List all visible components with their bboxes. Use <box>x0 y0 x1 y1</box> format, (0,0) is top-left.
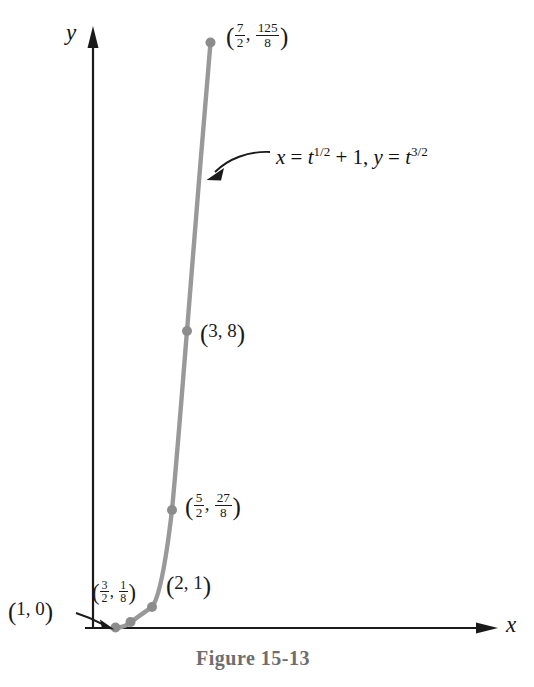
equation-exp2: 3/2 <box>411 144 428 159</box>
point-marker <box>147 602 157 612</box>
equation-eq1: = <box>285 145 307 169</box>
leader-arrow-equation <box>207 152 271 181</box>
curve-equation-label: x = t1/2 + 1, y = t3/2 <box>276 144 428 170</box>
paren-close: ) <box>203 572 211 599</box>
point-marker <box>126 617 136 627</box>
point-marker <box>111 623 121 633</box>
paren-open: ( <box>92 580 99 605</box>
fraction-1-8: 18 <box>119 579 128 604</box>
fraction-125-8: 1258 <box>256 21 279 49</box>
y-axis-label: y <box>66 20 76 46</box>
paren-close: ) <box>45 598 53 625</box>
point-marker <box>206 38 216 48</box>
label-comma: , <box>218 320 228 341</box>
equation-x-var: x <box>276 145 285 169</box>
label-comma: , <box>26 598 36 619</box>
label-x-value: 1 <box>16 598 26 619</box>
point-marker <box>167 505 177 515</box>
label-y-value: 8 <box>227 320 237 341</box>
point-label-3-8: (3, 8) <box>200 320 245 345</box>
point-label-2-1: (2, 1) <box>166 572 211 597</box>
parametric-curve <box>116 43 211 628</box>
paren-open: ( <box>166 572 174 599</box>
fraction-5-2: 52 <box>194 491 204 519</box>
fraction-3-2: 32 <box>100 579 109 604</box>
paren-close: ) <box>237 320 245 347</box>
point-label-7over2-125over8: (72, 1258) <box>226 22 288 50</box>
point-label-1-0: (1, 0) <box>8 598 53 623</box>
point-label-5over2-27over8: (52, 278) <box>185 492 241 520</box>
figure-container: y x x = t1/2 + 1, y = t3/2 (72, 1258) (3… <box>0 0 534 687</box>
fraction-27-8: 278 <box>215 491 231 519</box>
y-axis <box>88 26 99 629</box>
paren-open: ( <box>185 493 193 520</box>
x-axis <box>85 623 498 634</box>
paren-open: ( <box>200 320 208 347</box>
paren-close: ) <box>232 493 240 520</box>
paren-open: ( <box>226 23 234 50</box>
figure-graphic <box>0 0 534 687</box>
label-comma: , <box>205 493 215 514</box>
label-x-value: 3 <box>208 320 218 341</box>
point-label-3over2-1over8: (32, 18) <box>92 580 136 605</box>
figure-caption: Figure 15-13 <box>196 647 310 670</box>
point-marker <box>182 326 192 336</box>
paren-open: ( <box>8 598 16 625</box>
equation-plus1: + 1, <box>330 145 373 169</box>
paren-close: ) <box>128 580 135 605</box>
label-y-value: 0 <box>35 598 45 619</box>
equation-eq2: = <box>383 145 405 169</box>
x-axis-label: x <box>506 612 516 638</box>
label-comma: , <box>184 572 194 593</box>
label-y-value: 1 <box>193 572 203 593</box>
label-x-value: 2 <box>174 572 184 593</box>
equation-y-var: y <box>374 145 383 169</box>
label-comma: , <box>246 23 256 44</box>
label-comma: , <box>110 582 119 601</box>
equation-exp1: 1/2 <box>314 144 331 159</box>
fraction-7-2: 72 <box>235 21 245 49</box>
paren-close: ) <box>280 23 288 50</box>
